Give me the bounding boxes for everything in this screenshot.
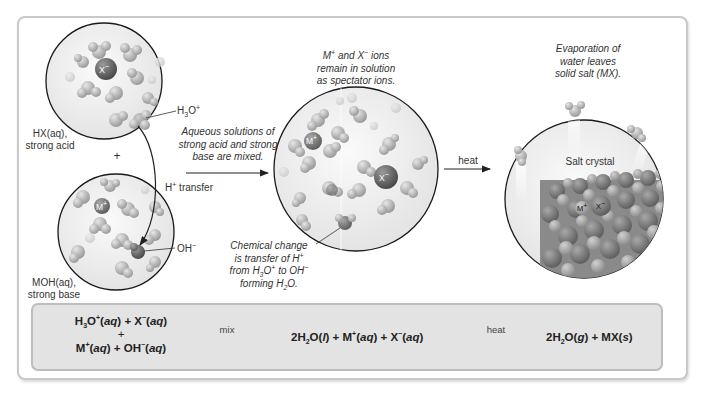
- evaporation-caption: Evaporation of water leaves solid salt (…: [538, 43, 638, 81]
- mix-caption-line: strong acid and strong: [168, 139, 288, 152]
- x-minus-ion-label: X−: [99, 64, 109, 76]
- evaporation-caption-line: water leaves: [538, 56, 638, 69]
- acid-formula: HX(aq),: [20, 128, 80, 140]
- crystal-lattice: [540, 169, 680, 290]
- mix-caption-line: Aqueous solutions of: [168, 126, 288, 139]
- mixed-solution-circle: [274, 87, 438, 251]
- acid-solution-circle: [46, 23, 176, 139]
- evaporation-caption-line: solid salt (MX).: [538, 68, 638, 81]
- equation-mix-label: mix: [207, 324, 247, 335]
- acid-label: HX(aq), strong acid: [20, 128, 80, 152]
- equation-heat-label: heat: [478, 324, 514, 335]
- salt-crystal-label: Salt crystal: [555, 156, 625, 168]
- reactants-plus: +: [116, 327, 126, 342]
- m-plus-ion-label: M+: [96, 201, 107, 213]
- plus-sign: +: [110, 150, 124, 162]
- base-formula: MOH(aq),: [20, 277, 88, 289]
- chemical-change-line: from H3O+ to OH−: [218, 265, 320, 278]
- m-plus-middle-label: M+: [306, 135, 317, 147]
- reactants-line-2: M+(aq) + OH−(aq): [66, 341, 176, 356]
- chemical-change-line: Chemical change: [218, 240, 320, 253]
- mix-caption: Aqueous solutions of strong acid and str…: [168, 126, 288, 164]
- heat-label: heat: [448, 155, 488, 167]
- m-plus-crystal-label: M+: [577, 203, 587, 215]
- mix-caption-line: base are mixed.: [168, 151, 288, 164]
- acid-description: strong acid: [20, 140, 80, 152]
- final-products: 2H2O(g) + MX(s): [546, 330, 633, 345]
- spectator-caption-line: as spectator ions.: [296, 75, 416, 88]
- hydronium-label: H3O+: [177, 105, 200, 117]
- evaporation-caption-line: Evaporation of: [538, 43, 638, 56]
- spectator-caption-line: M+ and X− ions: [296, 50, 416, 63]
- hydroxide-label: OH−: [177, 243, 196, 255]
- spectator-caption: M+ and X− ions remain in solution as spe…: [296, 50, 416, 88]
- intermediate-products: 2H2O(l) + M+(aq) + X−(aq): [291, 330, 423, 345]
- base-label: MOH(aq), strong base: [20, 277, 88, 301]
- x-minus-crystal-label: X−: [596, 201, 605, 213]
- salt-crystal-circle: [505, 101, 680, 290]
- x-minus-middle-label: X−: [379, 172, 389, 184]
- proton-transfer-label: H+ transfer: [165, 182, 213, 194]
- base-description: strong base: [20, 289, 88, 301]
- spectator-caption-line: remain in solution: [296, 63, 416, 76]
- base-solution-circle: [58, 174, 175, 290]
- chemical-change-line: forming H2O.: [218, 278, 320, 291]
- chemical-change-caption: Chemical change is transfer of H+ from H…: [218, 240, 320, 290]
